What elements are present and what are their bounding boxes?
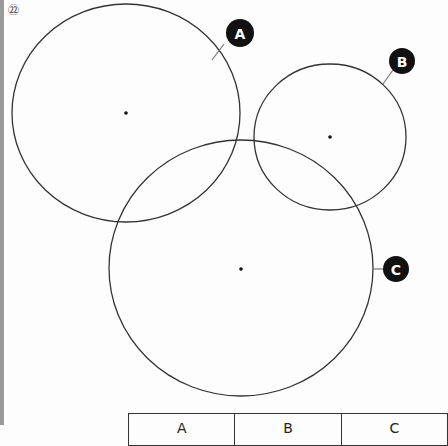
table-header-a: A (129, 414, 235, 446)
circle-a: A (12, 4, 254, 222)
answer-table: A B C (128, 413, 448, 446)
label-a: A (235, 26, 246, 42)
table-header-c: C (341, 414, 447, 446)
circle-b: B (254, 48, 415, 210)
label-c: C (391, 262, 401, 278)
label-b: B (397, 54, 408, 70)
center-dot-b (328, 135, 332, 139)
center-dot-c (239, 267, 243, 271)
center-dot-a (124, 111, 128, 115)
table-header-b: B (235, 414, 341, 446)
circle-c: C (109, 140, 409, 396)
table-header-row: A B C (129, 414, 448, 446)
